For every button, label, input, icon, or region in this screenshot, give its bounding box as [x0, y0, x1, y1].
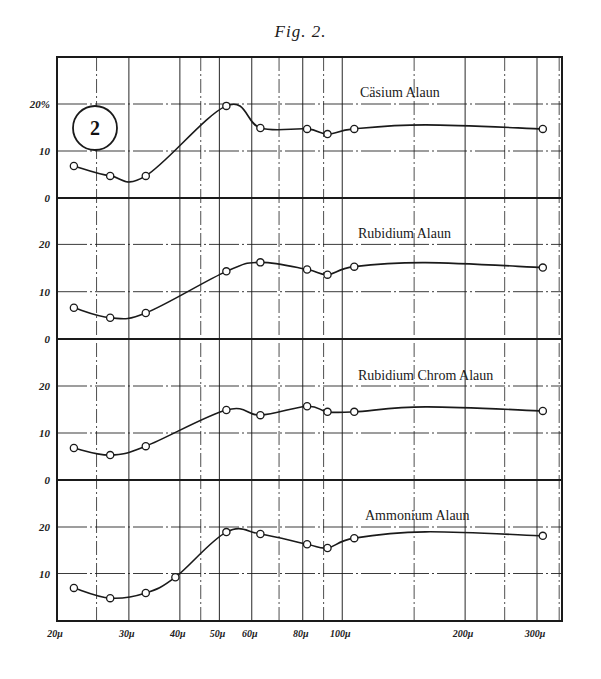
data-point	[303, 125, 310, 132]
series-label: Rubidium Chrom Alaun	[358, 368, 493, 383]
data-point	[142, 309, 149, 316]
data-point	[172, 574, 179, 581]
x-tick-label: 60μ	[242, 628, 258, 639]
x-tick-label: 100μ	[330, 628, 351, 639]
series-label: Rubidium Alaun	[358, 226, 451, 241]
x-tick-label: 50μ	[210, 628, 226, 639]
data-point	[539, 532, 546, 539]
data-point	[223, 529, 230, 536]
series-line	[74, 104, 543, 182]
data-point	[351, 408, 358, 415]
data-point	[303, 541, 310, 548]
x-axis-labels: 20μ30μ40μ50μ60μ80μ100μ200μ300μ	[46, 628, 546, 639]
y-tick-label: 0	[45, 333, 51, 345]
x-tick-label: 20μ	[46, 628, 63, 639]
data-point	[303, 403, 310, 410]
panel-number-badge: 2	[73, 106, 117, 150]
data-point	[257, 530, 264, 537]
x-tick-label: 300μ	[524, 628, 546, 639]
data-point	[223, 406, 230, 413]
y-tick-label: 20	[38, 238, 51, 250]
data-point	[142, 443, 149, 450]
data-point	[303, 266, 310, 273]
chart: 01020%01020010201020 20μ30μ40μ50μ60μ80μ1…	[0, 0, 601, 679]
data-point	[107, 172, 114, 179]
data-point	[324, 544, 331, 551]
data-point	[70, 444, 77, 451]
x-tick-label: 30μ	[118, 628, 135, 639]
data-point	[539, 125, 546, 132]
data-point	[142, 589, 149, 596]
data-point	[70, 162, 77, 169]
data-point	[223, 102, 230, 109]
data-point	[324, 130, 331, 137]
series-label: Ammonium Alaun	[365, 508, 470, 523]
data-point	[107, 451, 114, 458]
y-tick-label: 0	[45, 192, 51, 204]
y-tick-label: 20	[38, 521, 51, 533]
data-point	[70, 584, 77, 591]
y-tick-label: 10	[39, 286, 51, 298]
x-tick-label: 200μ	[452, 628, 474, 639]
data-point	[107, 595, 114, 602]
chart-frame	[57, 57, 562, 621]
data-point	[539, 407, 546, 414]
data-point	[351, 535, 358, 542]
data-point	[324, 408, 331, 415]
data-point	[257, 412, 264, 419]
data-point	[223, 268, 230, 275]
data-point	[324, 271, 331, 278]
data-point	[351, 125, 358, 132]
y-tick-label: 10	[39, 568, 51, 580]
y-tick-label: 10	[39, 427, 51, 439]
data-point	[539, 264, 546, 271]
y-tick-label: 10	[39, 145, 51, 157]
x-tick-label: 40μ	[169, 628, 186, 639]
series-line	[74, 529, 543, 599]
y-tick-label: 20%	[29, 98, 50, 110]
data-point	[142, 172, 149, 179]
y-tick-label: 20	[38, 380, 51, 392]
data-point	[70, 304, 77, 311]
y-axis-labels: 01020%01020010201020	[29, 98, 51, 580]
panel-number: 2	[90, 117, 100, 139]
x-tick-label: 80μ	[293, 628, 309, 639]
series-label: Cäsium Alaun	[360, 85, 440, 100]
data-point	[257, 124, 264, 131]
y-tick-label: 0	[45, 474, 51, 486]
data-point	[257, 259, 264, 266]
data-point	[351, 263, 358, 270]
data-point	[107, 314, 114, 321]
